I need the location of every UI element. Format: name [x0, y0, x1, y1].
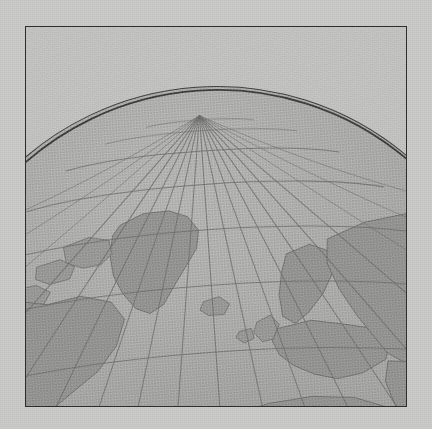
figure-caption — [0, 0, 1, 1]
graticule-layer — [25, 67, 407, 407]
figure-plate: Grayscale halftone printed map of a glob… — [0, 0, 432, 429]
figure-title: Orthographic globe, North Pole region — [0, 0, 1, 1]
globe-sphere — [25, 66, 407, 407]
graticule-lines — [25, 88, 407, 407]
figure-frame — [25, 26, 407, 407]
figure-alt-text: Grayscale halftone printed map of a glob… — [0, 0, 1, 1]
